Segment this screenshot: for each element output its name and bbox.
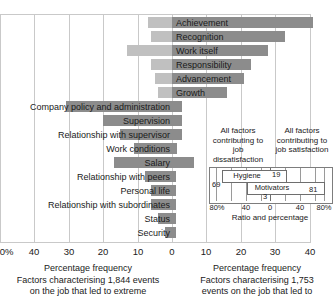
bar-right-relationship-supervisor [172, 129, 182, 140]
row-label-recognition: Recognition [176, 31, 224, 43]
inset-xtick-40-left: 40 [235, 203, 257, 212]
caption-left: Percentage frequency Factors characteris… [0, 263, 176, 298]
inset-axis-label: Ratio and percentage [225, 213, 315, 222]
bar-right-relationship-subordinates [172, 199, 176, 210]
row-label-responsibility: Responsibility [176, 59, 232, 71]
bar-right-work-conditions [172, 143, 177, 154]
xtick-right-30: 30 [260, 246, 290, 257]
row-label-work-itself: Work itself [176, 45, 218, 57]
inset-bar-motivators-label: Motivators [246, 184, 298, 192]
caption-left-line1: Percentage frequency [0, 263, 176, 275]
inset-title-right: All factors contributing to job satisfac… [272, 126, 332, 155]
row-label-achievement: Achievement [176, 17, 228, 29]
caption-right-line3: events on the job that led to [178, 286, 336, 298]
inset-xtick-80-right: 80% [313, 203, 335, 212]
bar-left-responsibility [151, 59, 172, 70]
row-label-relationship-peers: Relationship with peers [10, 171, 170, 183]
inset-value-motivators-dissat: 3 [263, 193, 267, 201]
row-label-advancement: Advancement [176, 73, 231, 85]
xtick-left-50: 50% [0, 246, 19, 257]
row-label-relationship-subordinates: Relationship with subordinates [10, 199, 170, 211]
xtick-right-10: 10 [191, 246, 221, 257]
row-label-relationship-supervisor: Relationship with supervisor [10, 129, 170, 141]
xtick-left-20: 20 [88, 246, 118, 257]
bar-right-salary [172, 157, 194, 168]
inset-xtick-80-left: 80% [206, 203, 228, 212]
bar-left-work-itself [127, 45, 172, 56]
row-label-personal-life: Personal life [10, 185, 170, 197]
bar-right-status [172, 213, 176, 224]
xtick-right-20: 20 [226, 246, 256, 257]
bar-right-relationship-peers [172, 171, 176, 182]
row-label-status: Status [10, 213, 170, 225]
inset-xtick-0: 0 [259, 203, 281, 212]
inset-bar-hygiene-label: Hygiene [224, 172, 270, 180]
row-label-security: Security [10, 227, 170, 239]
bar-right-security [172, 227, 176, 238]
row-label-supervision: Supervision [10, 115, 170, 127]
caption-right-line2: Factors characterising 1,753 [178, 275, 336, 287]
plot-frame-bottom [0, 242, 311, 243]
row-label-growth: Growth [176, 87, 205, 99]
inset-value-hygiene-sat: 19 [272, 171, 280, 179]
xtick-left-10: 10 [123, 246, 153, 257]
bar-left-growth [158, 87, 172, 98]
inset-title-left-text: All factors contributing to job dissatis… [213, 126, 263, 164]
herzberg-two-factor-chart: Achievement Recognition Work itself Resp… [0, 0, 336, 303]
inset-value-hygiene-dissat: 69 [212, 181, 220, 189]
plot-frame-top [0, 14, 311, 15]
inset-value-motivators-sat: 81 [309, 186, 317, 194]
xtick-left-40: 40 [19, 246, 49, 257]
bar-left-advancement [155, 73, 172, 84]
caption-left-line3: on the job that led to extreme [0, 286, 176, 298]
bar-left-achievement [148, 17, 172, 28]
inset-xtick-40-right: 40 [289, 203, 311, 212]
caption-left-line2: Factors characterising 1,844 events [0, 275, 176, 287]
xtick-right-40: 40 [295, 246, 325, 257]
xtick-left-30: 30 [54, 246, 84, 257]
row-label-salary: Salary [10, 157, 170, 169]
bar-right-company-policy [172, 101, 182, 112]
gridline-left-50 [0, 14, 1, 242]
bar-right-personal-life [172, 185, 176, 196]
inset-title-left: All factors contributing to job dissatis… [207, 126, 269, 164]
row-label-company-policy: Company policy and administration [10, 101, 170, 113]
inset-title-right-text: All factors contributing to job satisfac… [276, 126, 329, 154]
bar-left-recognition [151, 31, 172, 42]
caption-right-line1: Percentage frequency [178, 263, 336, 275]
row-label-work-conditions: Work conditions [10, 143, 170, 155]
plot-area: Achievement Recognition Work itself Resp… [0, 0, 336, 303]
xtick-zero: 0 [157, 246, 187, 257]
bar-right-supervision [172, 115, 182, 126]
caption-right: Percentage frequency Factors characteris… [178, 263, 336, 298]
